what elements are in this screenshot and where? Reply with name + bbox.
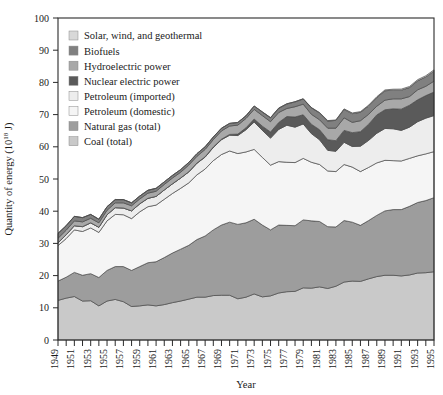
legend-label: Solar, wind, and geothermal [84,30,202,41]
x-tick-label: 1955 [98,349,109,369]
y-tick-label: 60 [39,141,49,152]
x-tick-label: 1981 [311,349,322,369]
energy-consumption-chart: 0102030405060708090100194919511953195519… [0,0,443,395]
x-tick-label: 1987 [360,349,371,369]
legend-label: Coal (total) [84,136,133,148]
x-tick-label: 1985 [343,349,354,369]
x-tick-label: 1959 [131,349,142,369]
x-tick-label: 1961 [147,349,158,369]
legend-label: Natural gas (total) [84,121,161,133]
x-tick-label: 1995 [425,349,436,369]
legend-swatch [69,122,78,131]
legend-swatch [69,31,78,40]
x-tick-label: 1969 [212,349,223,369]
legend-swatch [69,91,78,100]
y-tick-label: 70 [39,109,49,120]
x-tick-label: 1953 [82,349,93,369]
x-tick-label: 1971 [229,349,240,369]
legend-swatch [69,46,78,55]
y-tick-label: 30 [39,238,49,249]
y-axis: 0102030405060708090100 [34,13,58,346]
y-axis-title: Quantity of energy (1018 J) [2,122,15,235]
x-tick-label: 1993 [409,349,420,369]
y-tick-label: 20 [39,270,49,281]
legend-label: Biofuels [84,46,120,57]
legend-swatch [69,76,78,85]
x-tick-label: 1973 [245,349,256,369]
legend-label: Hydroelectric power [84,61,171,72]
x-tick-label: 1991 [392,349,403,369]
legend-label: Petroleum (domestic) [84,106,175,118]
y-tick-label: 10 [39,302,49,313]
x-tick-label: 1967 [196,349,207,369]
legend-label: Petroleum (imported) [84,91,175,103]
y-tick-label: 0 [44,335,49,346]
x-axis-title: Year [236,379,256,390]
x-tick-label: 1965 [180,349,191,369]
y-tick-label: 90 [39,45,49,56]
legend-swatch [69,61,78,70]
legend-label: Nuclear electric power [84,76,180,87]
x-tick-label: 1989 [376,349,387,369]
x-axis: 1949195119531955195719591961196319651967… [49,340,436,369]
x-tick-label: 1983 [327,349,338,369]
x-tick-label: 1975 [262,349,273,369]
x-tick-label: 1951 [65,349,76,369]
legend: Solar, wind, and geothermalBiofuelsHydro… [69,30,202,148]
y-tick-label: 100 [34,13,49,24]
x-tick-label: 1949 [49,349,60,369]
y-tick-label: 40 [39,206,49,217]
x-tick-label: 1957 [114,349,125,369]
legend-swatch [69,137,78,146]
chart-canvas: 0102030405060708090100194919511953195519… [0,0,443,395]
x-tick-label: 1979 [294,349,305,369]
y-tick-label: 80 [39,77,49,88]
legend-swatch [69,107,78,116]
x-tick-label: 1977 [278,349,289,369]
y-tick-label: 50 [39,174,49,185]
x-tick-label: 1963 [163,349,174,369]
